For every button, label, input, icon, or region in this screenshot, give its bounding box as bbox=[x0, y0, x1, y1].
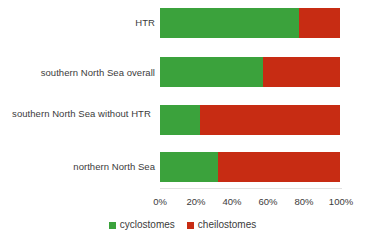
axis-baseline bbox=[160, 188, 342, 189]
bar-row[interactable] bbox=[160, 57, 340, 87]
category-label-southern-north-sea-overall: southern North Sea overall bbox=[5, 67, 155, 78]
bar-segment-cyclostomes[interactable] bbox=[160, 57, 263, 87]
legend-swatch-icon bbox=[187, 222, 194, 229]
bar-row[interactable] bbox=[160, 105, 340, 135]
category-label-northern-north-sea: northern North Sea bbox=[5, 161, 155, 172]
legend-entry-cheilostomes[interactable]: cheilostomes bbox=[187, 219, 256, 231]
bar-row[interactable] bbox=[160, 152, 340, 182]
legend-label: cyclostomes bbox=[120, 219, 175, 231]
legend-swatch-icon bbox=[109, 222, 116, 229]
bar-segment-cyclostomes[interactable] bbox=[160, 152, 218, 182]
legend: cyclostomes cheilostomes bbox=[0, 219, 365, 231]
stacked-bar-chart: HTR southern North Sea overall southern … bbox=[0, 0, 365, 242]
x-axis: 0% 20% 40% 60% 80% 100% bbox=[0, 196, 365, 210]
legend-entry-cyclostomes[interactable]: cyclostomes bbox=[109, 219, 175, 231]
bar-segment-cheilostomes[interactable] bbox=[200, 105, 340, 135]
category-label-htr: HTR bbox=[5, 17, 155, 28]
bar-segment-cyclostomes[interactable] bbox=[160, 105, 200, 135]
category-label-southern-north-sea-without-htr: southern North Sea without HTR bbox=[8, 108, 155, 119]
bar-segment-cyclostomes[interactable] bbox=[160, 8, 299, 38]
legend-label: cheilostomes bbox=[198, 219, 256, 231]
x-tick-label: 100% bbox=[319, 196, 363, 208]
plot-area bbox=[160, 0, 340, 190]
bar-segment-cheilostomes[interactable] bbox=[263, 57, 340, 87]
bar-segment-cheilostomes[interactable] bbox=[299, 8, 340, 38]
bar-row[interactable] bbox=[160, 8, 340, 38]
bar-segment-cheilostomes[interactable] bbox=[218, 152, 340, 182]
